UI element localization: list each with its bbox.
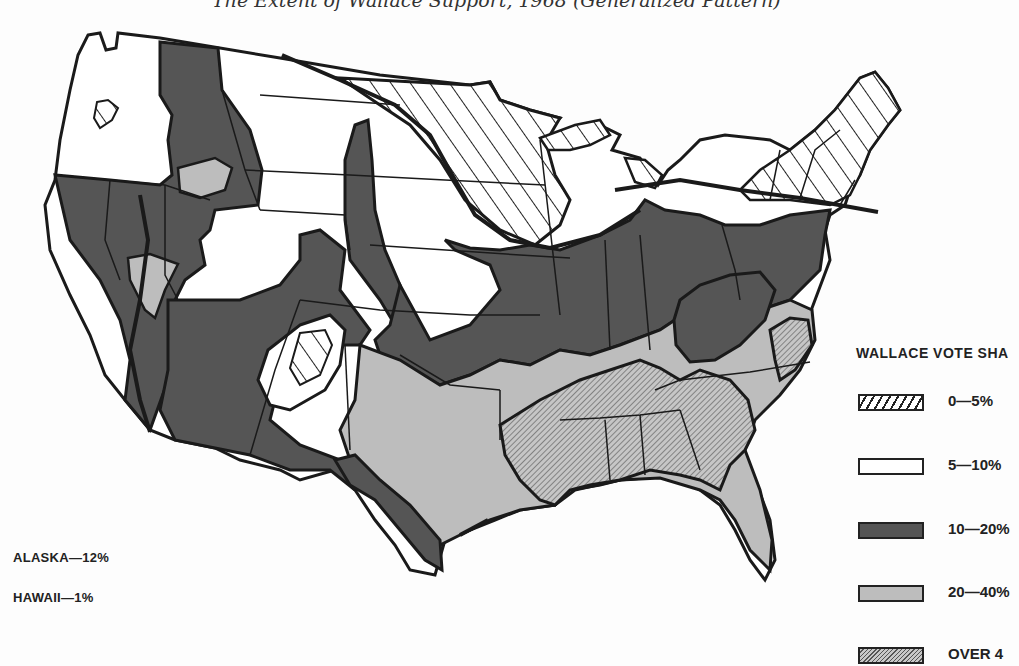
fine-hatch-swatch-icon	[858, 647, 924, 664]
legend-label: 10—20%	[948, 520, 1010, 537]
legend: WALLACE VOTE SHA 0—5% 5—10% 10—20% 20—40…	[858, 345, 1019, 361]
dark-gray-swatch-icon	[858, 522, 924, 539]
zone-carolina-high	[770, 318, 812, 380]
legend-label: OVER 4	[948, 645, 1003, 662]
diagonal-hatch-swatch-icon	[858, 394, 924, 411]
legend-label: 5—10%	[948, 456, 1001, 473]
legend-label: 0—5%	[948, 392, 993, 409]
us-map	[0, 0, 1019, 666]
white-swatch-icon	[858, 458, 924, 475]
light-gray-swatch-icon	[858, 585, 924, 602]
legend-title: WALLACE VOTE SHA	[856, 345, 1019, 361]
alaska-note: ALASKA—12%	[13, 550, 109, 565]
legend-label: 20—40%	[948, 583, 1010, 600]
hawaii-note: HAWAII—1%	[13, 590, 94, 605]
